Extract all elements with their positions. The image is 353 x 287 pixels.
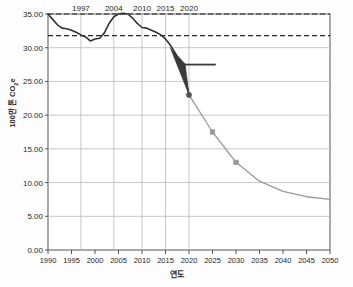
x-tick-label: 2035 bbox=[251, 256, 268, 265]
y-tick-label: 10.00 bbox=[23, 179, 44, 188]
x-tick-label: 2000 bbox=[87, 256, 104, 265]
chart-plot-area: 0.005.0010.0015.0020.0025.0030.0035.00 1… bbox=[0, 0, 353, 287]
top-year-label: 2015 bbox=[157, 4, 175, 13]
y-tick-label: 20.00 bbox=[23, 111, 44, 120]
x-tick-label: 2015 bbox=[157, 256, 174, 265]
y-axis-title-main: 100만 톤 CO bbox=[8, 86, 17, 128]
y-tick-label: 35.00 bbox=[23, 10, 44, 19]
y-axis-title-subscript: 2 bbox=[13, 83, 19, 86]
top-year-label: 2010 bbox=[133, 4, 151, 13]
x-tick-label: 2045 bbox=[298, 256, 315, 265]
x-tick-label: 2005 bbox=[110, 256, 127, 265]
x-axis-ticks bbox=[48, 250, 330, 254]
top-year-annotation-labels: 19972004201020152020 bbox=[72, 4, 198, 13]
x-tick-label: 2030 bbox=[228, 256, 245, 265]
top-year-label: 2020 bbox=[180, 4, 198, 13]
top-year-label: 1997 bbox=[72, 4, 90, 13]
data-point-marker bbox=[234, 160, 239, 165]
x-tick-label: 2020 bbox=[181, 256, 198, 265]
y-tick-label: 0.00 bbox=[27, 246, 43, 255]
y-tick-label: 5.00 bbox=[27, 212, 43, 221]
y-axis-title-tail: e bbox=[8, 78, 17, 82]
x-tick-label: 1990 bbox=[40, 256, 57, 265]
y-axis-title: 100만 톤 CO2e bbox=[6, 63, 22, 143]
x-tick-label: 2040 bbox=[275, 256, 292, 265]
x-tick-label: 1995 bbox=[63, 256, 80, 265]
y-axis-tick-labels: 0.005.0010.0015.0020.0025.0030.0035.00 bbox=[23, 10, 44, 255]
y-tick-label: 15.00 bbox=[23, 145, 44, 154]
top-year-label: 2004 bbox=[105, 4, 123, 13]
y-tick-label: 25.00 bbox=[23, 77, 44, 86]
data-point-marker bbox=[210, 130, 215, 135]
x-tick-label: 2010 bbox=[134, 256, 151, 265]
data-point-marker bbox=[186, 92, 191, 97]
x-tick-label: 2025 bbox=[204, 256, 221, 265]
x-tick-label: 2050 bbox=[322, 256, 339, 265]
x-axis-tick-labels: 1990199520002005201020152020202520302035… bbox=[40, 256, 339, 265]
x-axis-title: 연도 bbox=[0, 268, 353, 279]
chart-container: 0.005.0010.0015.0020.0025.0030.0035.00 1… bbox=[0, 0, 353, 287]
y-tick-label: 30.00 bbox=[23, 44, 44, 53]
